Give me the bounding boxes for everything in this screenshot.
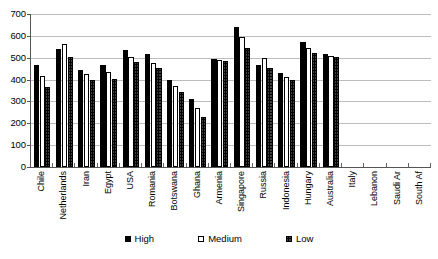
bar-low	[290, 80, 295, 167]
bar-low	[156, 68, 161, 167]
x-axis-label: Russia	[259, 171, 268, 199]
x-axis-tick	[430, 163, 431, 167]
bar-medium	[239, 37, 244, 167]
solid-black-square-icon	[125, 236, 131, 242]
bar-group	[253, 14, 275, 167]
bar-low	[334, 57, 339, 167]
bar-medium	[262, 58, 267, 167]
x-axis-label: Armenia	[214, 171, 223, 205]
bar-medium	[306, 48, 311, 167]
x-axis-label: Australia	[325, 171, 334, 206]
bar-medium	[284, 77, 289, 167]
bar-group	[98, 14, 120, 167]
x-axis-label: South Af	[414, 171, 423, 205]
bar-high	[56, 49, 61, 167]
legend-label: Low	[296, 234, 313, 244]
bar-high	[256, 65, 261, 167]
bar-high	[123, 50, 128, 167]
bar-group	[75, 14, 97, 167]
bar-low	[112, 79, 117, 167]
legend-item-low[interactable]: Low	[286, 234, 313, 244]
x-axis-label-cell: Egypt	[97, 169, 119, 231]
plot-area: 0100200300400500600700	[30, 14, 430, 167]
bar-high	[167, 80, 172, 167]
bar-medium	[217, 60, 222, 167]
bar-group	[231, 14, 253, 167]
bar-group	[275, 14, 297, 167]
bar-group	[187, 14, 209, 167]
bar-low	[201, 117, 206, 167]
y-axis-tick-label: 0	[21, 162, 26, 172]
x-axis-label: Netherlands	[59, 171, 68, 220]
x-axis-label-cell: Netherlands	[52, 169, 74, 231]
bar-group	[120, 14, 142, 167]
bar-group	[342, 14, 364, 167]
x-axis-label: Hungary	[303, 171, 312, 205]
bar-groups	[31, 14, 431, 167]
x-axis-label-cell: Ghana	[186, 169, 208, 231]
x-axis-label: Singapore	[237, 171, 246, 212]
x-axis-label-cell: Australia	[319, 169, 341, 231]
y-axis-tick-label: 600	[10, 31, 26, 41]
x-axis-label-cell: Indonesia	[274, 169, 296, 231]
y-axis-tick-label: 300	[10, 97, 26, 107]
bar-high	[234, 27, 239, 167]
dotted-square-icon	[286, 236, 292, 242]
bar-chart: 0100200300400500600700 ChileNetherlandsI…	[0, 0, 438, 259]
bar-medium	[62, 44, 67, 167]
x-axis-label-cell: Botswana	[163, 169, 185, 231]
y-axis-tick-label: 700	[10, 9, 26, 19]
legend-label: Medium	[208, 234, 242, 244]
x-axis-label-cell: Lebanon	[363, 169, 385, 231]
legend-item-high[interactable]: High	[125, 234, 155, 244]
x-axis-label: Saudi Ar	[392, 171, 401, 205]
bar-high	[300, 42, 305, 167]
bar-low	[90, 80, 95, 167]
bar-group	[298, 14, 320, 167]
x-axis-label: Lebanon	[370, 171, 379, 206]
bar-medium	[40, 76, 45, 167]
bar-medium	[195, 108, 200, 167]
bar-medium	[128, 57, 133, 167]
y-axis-tick-label: 100	[10, 140, 26, 150]
y-axis-tick-label: 200	[10, 119, 26, 129]
bar-high	[211, 59, 216, 167]
y-axis-tick-label: 500	[10, 53, 26, 63]
bar-group	[142, 14, 164, 167]
x-axis-label-cell: USA	[119, 169, 141, 231]
bar-group	[53, 14, 75, 167]
bar-low	[223, 61, 228, 167]
bar-high	[78, 70, 83, 167]
bar-medium	[84, 74, 89, 167]
bar-low	[312, 53, 317, 167]
y-axis-tick-label: 400	[10, 75, 26, 85]
bar-high	[323, 54, 328, 167]
bar-low	[267, 68, 272, 167]
x-axis-label-cell: Iran	[74, 169, 96, 231]
x-axis-label-cell: Singapore	[230, 169, 252, 231]
x-axis-labels: ChileNetherlandsIranEgyptUSARomaniaBotsw…	[30, 169, 430, 231]
x-axis-label-cell: Armenia	[208, 169, 230, 231]
x-axis-label: Indonesia	[281, 171, 290, 210]
bar-group	[387, 14, 409, 167]
bar-group	[209, 14, 231, 167]
bar-medium	[151, 63, 156, 167]
bar-low	[68, 57, 73, 167]
bar-group	[320, 14, 342, 167]
y-axis-tick	[27, 167, 31, 168]
legend-label: High	[135, 234, 155, 244]
bar-group	[164, 14, 186, 167]
legend-item-medium[interactable]: Medium	[198, 234, 242, 244]
x-axis-label-cell: South Af	[408, 169, 430, 231]
x-axis-label: Botswana	[170, 171, 179, 211]
bar-medium	[328, 56, 333, 167]
x-axis-label: Italy	[348, 171, 357, 188]
bar-high	[34, 65, 39, 167]
bar-low	[179, 92, 184, 167]
x-axis-label-cell: Chile	[30, 169, 52, 231]
bar-high	[100, 65, 105, 167]
x-axis-label-cell: Italy	[341, 169, 363, 231]
gridline-0	[31, 167, 431, 168]
bar-low	[245, 48, 250, 167]
x-axis-label: USA	[125, 171, 134, 190]
